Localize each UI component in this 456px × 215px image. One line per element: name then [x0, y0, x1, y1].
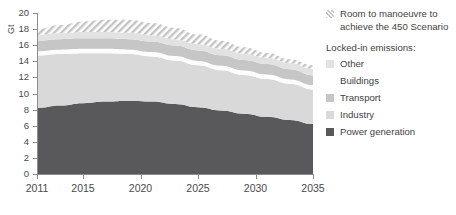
- y-axis-tick-label: 4: [0, 136, 29, 147]
- x-axis-tick-label: 2035: [301, 182, 324, 194]
- y-axis-tick-label: 16: [0, 39, 29, 50]
- legend-item-buildings: Buildings: [326, 75, 456, 88]
- legend-item-power-generation: Power generation: [326, 126, 456, 139]
- y-axis-tick-label: 20: [0, 7, 29, 18]
- legend-label-room-to-manoeuvre: Room to manoeuvre to achieve the 450 Sce…: [340, 8, 456, 33]
- legend-heading: Locked-in emissions:: [326, 42, 456, 55]
- y-axis-tick-label: 14: [0, 55, 29, 66]
- legend-label: Industry: [340, 109, 456, 122]
- legend-label: Other: [340, 58, 456, 71]
- legend-label: Power generation: [340, 126, 456, 139]
- y-axis-tick-label: 0: [0, 168, 29, 179]
- y-axis-tick-label: 8: [0, 104, 29, 115]
- y-axis-tick-label: 12: [0, 71, 29, 82]
- legend-label-line2: achieve the 450 Scenario: [340, 21, 448, 32]
- chart-legend: Room to manoeuvre to achieve the 450 Sce…: [326, 8, 456, 143]
- legend-label: Buildings: [340, 75, 456, 88]
- stacked-area-svg: [37, 13, 313, 174]
- chart-figure: Gt 02468101214161820 2011201520202025203…: [0, 0, 456, 215]
- legend-swatch-icon: [326, 60, 334, 68]
- x-axis-line: [37, 174, 314, 175]
- x-axis-tick: [198, 175, 199, 179]
- area-bands: [37, 20, 313, 174]
- x-axis-tick: [313, 175, 314, 179]
- x-axis-tick-label: 2020: [129, 182, 152, 194]
- legend-swatch-icon: [326, 77, 334, 85]
- legend-item-transport: Transport: [326, 92, 456, 105]
- legend-item-industry: Industry: [326, 109, 456, 122]
- y-axis-line: [37, 13, 38, 175]
- legend-item-list: OtherBuildingsTransportIndustryPower gen…: [326, 58, 456, 139]
- legend-item-room-to-manoeuvre: Room to manoeuvre to achieve the 450 Sce…: [326, 8, 456, 33]
- plot-area: [37, 13, 313, 174]
- x-axis-tick-label: 2030: [244, 182, 267, 194]
- legend-item-other: Other: [326, 58, 456, 71]
- x-axis-tick: [83, 175, 84, 179]
- x-axis-tick: [141, 175, 142, 179]
- legend-swatch-icon: [326, 111, 334, 119]
- legend-swatch-icon: [326, 94, 334, 102]
- legend-swatch-icon: [326, 128, 334, 136]
- x-axis-tick: [37, 175, 38, 179]
- legend-label-line1: Room to manoeuvre to: [340, 8, 438, 19]
- y-axis-tick-label: 10: [0, 88, 29, 99]
- x-axis-tick-label: 2011: [26, 182, 49, 194]
- y-axis-tick-label: 6: [0, 120, 29, 131]
- y-axis-tick-label: 2: [0, 152, 29, 163]
- legend-label: Transport: [340, 92, 456, 105]
- hatch-swatch-icon: [326, 10, 334, 18]
- x-axis-tick-label: 2015: [71, 182, 94, 194]
- x-axis-tick: [256, 175, 257, 179]
- y-axis-tick-label: 18: [0, 23, 29, 34]
- x-axis-tick-label: 2025: [186, 182, 209, 194]
